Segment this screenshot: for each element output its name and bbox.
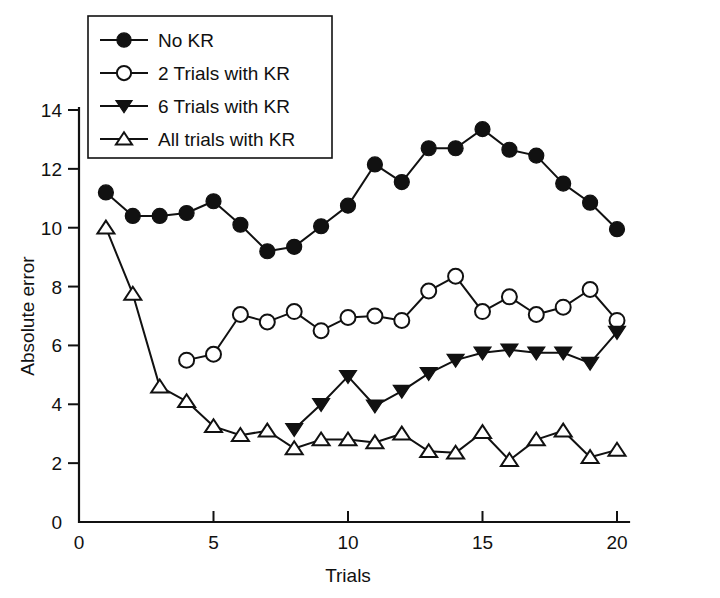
- marker-open-circle: [475, 304, 490, 319]
- marker-filled-circle: [179, 206, 194, 221]
- marker-open-circle: [117, 66, 131, 80]
- axes: 0246810121405101520: [41, 100, 629, 553]
- marker-open-up-triangle: [124, 287, 141, 300]
- marker-open-circle: [206, 347, 221, 362]
- marker-filled-circle: [583, 195, 598, 210]
- marker-open-up-triangle: [474, 425, 491, 438]
- marker-filled-circle: [152, 208, 167, 223]
- y-axis-title: Absolute error: [17, 256, 38, 376]
- marker-open-circle: [287, 304, 302, 319]
- line-chart: 0246810121405101520 No KR2 Trials with K…: [0, 0, 720, 598]
- marker-filled-circle: [556, 176, 571, 191]
- marker-filled-circle: [475, 122, 490, 137]
- marker-open-up-triangle: [393, 427, 410, 440]
- marker-open-up-triangle: [420, 444, 437, 457]
- marker-filled-down-triangle: [609, 326, 626, 339]
- marker-filled-down-triangle: [420, 368, 437, 381]
- marker-open-circle: [556, 300, 571, 315]
- legend-item-label: No KR: [158, 30, 214, 51]
- marker-filled-circle: [529, 148, 544, 163]
- marker-open-circle: [421, 283, 436, 298]
- marker-open-circle: [233, 307, 248, 322]
- marker-open-up-triangle: [555, 424, 572, 437]
- data-series: [97, 122, 625, 466]
- series-4: [97, 221, 625, 466]
- x-tick-label: 5: [208, 532, 219, 553]
- marker-filled-circle: [502, 142, 517, 157]
- x-tick-label: 20: [606, 532, 627, 553]
- y-tick-label: 8: [51, 277, 62, 298]
- marker-filled-down-triangle: [447, 354, 464, 367]
- marker-filled-circle: [260, 244, 275, 259]
- marker-filled-circle: [448, 141, 463, 156]
- marker-open-up-triangle: [286, 441, 303, 454]
- marker-open-up-triangle: [97, 221, 114, 234]
- y-tick-label: 10: [41, 218, 62, 239]
- marker-open-circle: [260, 314, 275, 329]
- y-tick-label: 14: [41, 100, 63, 121]
- marker-open-circle: [367, 309, 382, 324]
- marker-filled-circle: [206, 194, 221, 209]
- marker-filled-circle: [421, 141, 436, 156]
- marker-filled-circle: [117, 33, 131, 47]
- marker-open-up-triangle: [259, 424, 276, 437]
- x-axis-title: Trials: [325, 565, 371, 586]
- chart-page: 0246810121405101520 No KR2 Trials with K…: [0, 0, 720, 598]
- series-3: [286, 326, 626, 436]
- marker-filled-circle: [233, 217, 248, 232]
- x-tick-label: 15: [472, 532, 493, 553]
- y-tick-label: 6: [51, 335, 62, 356]
- marker-filled-circle: [125, 208, 140, 223]
- legend-item-label: All trials with KR: [158, 129, 295, 150]
- marker-open-circle: [314, 323, 329, 338]
- marker-filled-down-triangle: [286, 424, 303, 437]
- marker-open-circle: [502, 289, 517, 304]
- chart-legend: No KR2 Trials with KR6 Trials with KRAll…: [88, 16, 332, 158]
- series-line: [106, 228, 617, 460]
- marker-open-circle: [529, 307, 544, 322]
- marker-filled-circle: [341, 198, 356, 213]
- marker-open-circle: [394, 313, 409, 328]
- x-tick-label: 10: [337, 532, 358, 553]
- legend-item-label: 2 Trials with KR: [158, 63, 290, 84]
- y-tick-label: 4: [51, 394, 62, 415]
- y-tick-label: 12: [41, 159, 62, 180]
- y-tick-label: 0: [51, 512, 62, 533]
- marker-filled-circle: [367, 157, 382, 172]
- marker-open-circle: [583, 282, 598, 297]
- marker-open-circle: [448, 269, 463, 284]
- axis-titles: TrialsAbsolute error: [17, 256, 371, 586]
- marker-filled-down-triangle: [582, 357, 599, 370]
- marker-open-up-triangle: [151, 379, 168, 392]
- marker-filled-down-triangle: [393, 385, 410, 398]
- marker-open-circle: [610, 313, 625, 328]
- marker-open-up-triangle: [528, 432, 545, 445]
- marker-filled-circle: [98, 185, 113, 200]
- marker-filled-circle: [314, 219, 329, 234]
- marker-open-up-triangle: [609, 443, 626, 456]
- marker-filled-down-triangle: [366, 400, 383, 413]
- marker-open-circle: [179, 353, 194, 368]
- x-tick-label: 0: [74, 532, 85, 553]
- marker-filled-circle: [394, 175, 409, 190]
- legend-item-label: 6 Trials with KR: [158, 96, 290, 117]
- marker-open-circle: [341, 310, 356, 325]
- marker-open-up-triangle: [178, 394, 195, 407]
- y-tick-label: 2: [51, 453, 62, 474]
- marker-filled-circle: [610, 222, 625, 237]
- marker-filled-circle: [287, 239, 302, 254]
